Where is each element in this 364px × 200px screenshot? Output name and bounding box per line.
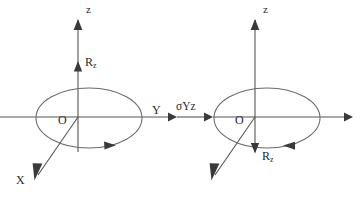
left-x-axis-arrowhead — [33, 163, 43, 180]
left-rz-vector-label: Rz — [85, 56, 97, 70]
left-rotation-ellipse — [36, 88, 142, 148]
symmetry-operation-figure: z Y X O Rz σYz z O Rz — [0, 0, 364, 200]
operator-arrowhead — [204, 113, 213, 122]
right-rz-vector-label: Rz — [262, 150, 274, 164]
left-rz-vector-base: R — [85, 55, 93, 69]
left-y-axis-arrowhead — [168, 113, 177, 122]
right-rz-vector-subscript: z — [270, 155, 274, 164]
right-rotation-arrowhead — [283, 142, 295, 150]
right-diagram — [210, 19, 353, 181]
right-z-axis-arrowhead — [251, 19, 260, 30]
left-diagram — [0, 19, 177, 181]
left-rotation-arrowhead — [104, 142, 116, 150]
right-origin-label: O — [235, 114, 244, 126]
left-z-axis-arrowhead — [74, 19, 83, 30]
operator-arrow-group — [177, 113, 213, 122]
left-y-axis-label: Y — [152, 104, 161, 116]
right-rotation-ellipse — [214, 88, 320, 148]
right-rz-vector-arrowhead — [251, 143, 259, 154]
right-rz-vector-base: R — [262, 149, 270, 163]
left-x-axis-label: X — [16, 174, 25, 186]
left-rz-vector-subscript: z — [93, 61, 97, 70]
right-z-axis-label: z — [263, 4, 268, 15]
right-y-axis-arrowhead — [344, 113, 353, 122]
sigma-yz-operator-label: σYz — [176, 101, 196, 113]
right-x-axis-arrowhead — [210, 163, 220, 180]
left-origin-label: O — [58, 114, 67, 126]
left-z-axis-label: z — [86, 4, 91, 15]
left-rz-vector-arrowhead — [74, 61, 82, 72]
